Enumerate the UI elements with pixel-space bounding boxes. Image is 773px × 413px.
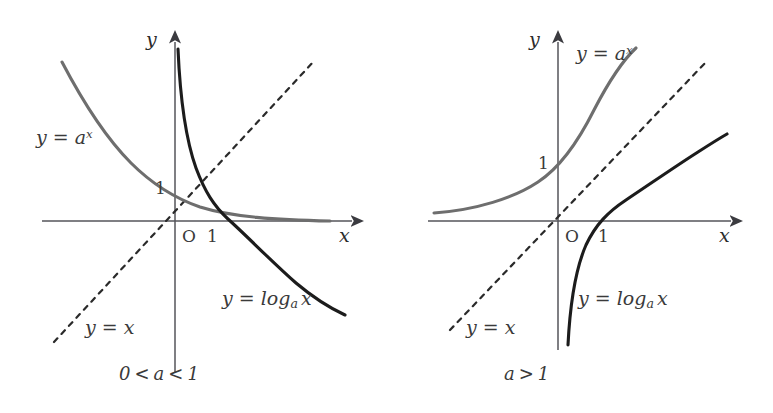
y-axis-label-left: y bbox=[146, 30, 157, 49]
caption-right-op1: > bbox=[519, 363, 534, 384]
identity-label-left: y = x bbox=[85, 318, 134, 337]
caption-left-op2: < bbox=[168, 363, 183, 384]
log-label-sub-right: a bbox=[646, 296, 653, 311]
y-axis-label-right: y bbox=[529, 30, 540, 49]
caption-left: 0<a<1 bbox=[119, 365, 199, 383]
caption-left-op1: < bbox=[134, 363, 149, 384]
caption-right: a>1 bbox=[504, 365, 549, 383]
y-tick-one-right: 1 bbox=[538, 155, 549, 172]
caption-right-rhs: 1 bbox=[538, 363, 549, 384]
x-axis-label-left: x bbox=[339, 226, 350, 245]
exponential-label-sup-right: x bbox=[626, 43, 633, 57]
exponential-curve-right bbox=[434, 48, 636, 213]
log-label-left: y = logax bbox=[222, 289, 312, 311]
exponential-curve-left bbox=[62, 62, 330, 221]
log-label-tail-right: x bbox=[657, 287, 668, 309]
caption-left-lhs: 0 bbox=[119, 363, 130, 384]
caption-left-var: a bbox=[154, 363, 165, 384]
exponential-label-base-left: y = a bbox=[36, 126, 86, 148]
caption-left-rhs: 1 bbox=[187, 363, 198, 384]
caption-right-var: a bbox=[504, 363, 515, 384]
exponential-label-base-right: y = a bbox=[576, 42, 626, 64]
exponential-label-left: y = ax bbox=[36, 128, 93, 147]
x-tick-one-left: 1 bbox=[207, 228, 218, 245]
log-curve-left bbox=[178, 49, 345, 315]
log-label-right: y = logax bbox=[578, 289, 668, 311]
log-label-base-right: y = log bbox=[578, 287, 646, 309]
identity-label-right: y = x bbox=[466, 318, 515, 337]
y-tick-one-left: 1 bbox=[155, 180, 166, 197]
exponential-label-right: y = ax bbox=[576, 44, 633, 63]
log-label-base-left: y = log bbox=[222, 287, 290, 309]
origin-label-left: O bbox=[182, 228, 196, 245]
origin-label-right: O bbox=[565, 228, 579, 245]
log-label-sub-left: a bbox=[290, 296, 297, 311]
exponential-label-sup-left: x bbox=[86, 127, 93, 141]
log-curve-right bbox=[568, 134, 727, 345]
x-axis-label-right: x bbox=[719, 226, 730, 245]
chart-panel-right: y x 1 O 1 y = ax y = logax y = x a>1 bbox=[386, 0, 772, 413]
x-tick-one-right: 1 bbox=[598, 228, 609, 245]
log-label-tail-left: x bbox=[301, 287, 312, 309]
chart-left-svg bbox=[0, 0, 386, 413]
chart-panel-left: y x 1 O 1 y = ax y = logax y = x 0<a<1 bbox=[0, 0, 386, 413]
figure-root: y x 1 O 1 y = ax y = logax y = x 0<a<1 bbox=[0, 0, 773, 413]
